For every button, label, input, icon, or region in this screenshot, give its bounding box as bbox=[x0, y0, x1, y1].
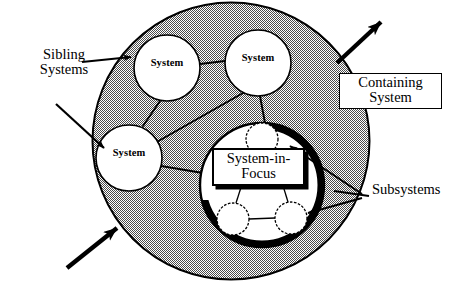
node-label-system-top-left: System bbox=[140, 58, 194, 69]
label-sibling-systems: Sibling Systems bbox=[16, 47, 112, 77]
systems-context-diagram bbox=[0, 0, 461, 285]
node-label-system-left: System bbox=[102, 148, 156, 159]
label-containing-system: Containing System bbox=[339, 73, 442, 109]
containing-system-leader-arrow bbox=[337, 22, 381, 63]
diagram-canvas: Sibling Systems Containing System System… bbox=[0, 0, 461, 285]
inbound-arrow bbox=[67, 228, 117, 268]
label-system-in-focus: System-in- Focus bbox=[212, 148, 305, 186]
subsystem-node-bottom-right bbox=[275, 202, 307, 234]
containing-system-arrow bbox=[337, 22, 381, 63]
containing-system-inbound-arrow bbox=[67, 228, 117, 268]
subsystem-node-bottom-left bbox=[217, 203, 249, 235]
label-subsystems: Subsystems bbox=[372, 182, 460, 197]
node-label-system-top-right: System bbox=[231, 53, 285, 64]
